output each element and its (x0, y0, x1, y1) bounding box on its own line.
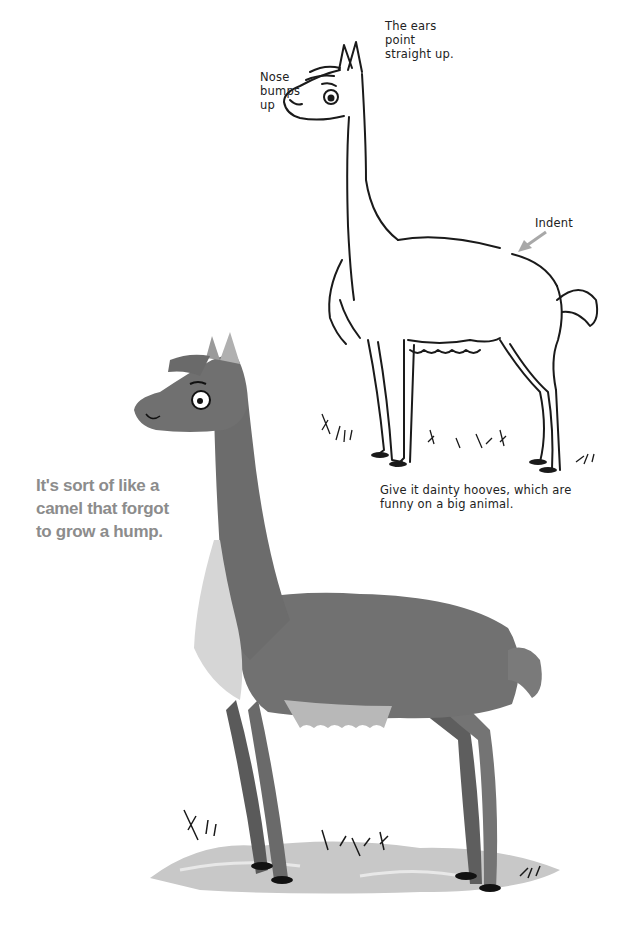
hooves-annotation-line: Give it dainty hooves, which are (380, 483, 572, 497)
nose-annotation: Nose bumps up (260, 70, 300, 112)
ears-annotation-line: point (385, 33, 454, 47)
hooves-annotation: Give it dainty hooves, which are funny o… (380, 483, 572, 511)
nose-annotation-line: up (260, 98, 300, 112)
nose-annotation-line: bumps (260, 84, 300, 98)
hooves-annotation-line: funny on a big animal. (380, 497, 572, 511)
callout-line: to grow a hump. (36, 520, 169, 543)
llama-shaded-illustration (134, 332, 560, 894)
nose-annotation-line: Nose (260, 70, 300, 84)
callout-line: camel that forgot (36, 497, 169, 520)
llama-line-sketch (0, 0, 639, 928)
ears-annotation-line: The ears (385, 19, 454, 33)
camel-callout: It's sort of like a camel that forgot to… (36, 474, 169, 543)
indent-annotation: Indent (535, 216, 573, 230)
indent-arrow-icon (518, 232, 546, 252)
ears-annotation-line: straight up. (385, 47, 454, 61)
callout-line: It's sort of like a (36, 474, 169, 497)
ears-annotation: The ears point straight up. (385, 19, 454, 61)
